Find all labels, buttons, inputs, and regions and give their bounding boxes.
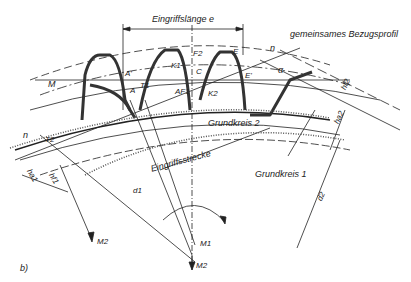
point-n-top: n bbox=[270, 44, 275, 53]
point-C: C bbox=[196, 68, 202, 76]
point-A: A bbox=[130, 87, 135, 95]
contact-length-label: Eingriffslänge e bbox=[152, 15, 214, 24]
reference-profile-label: gemeinsames Bezugsprofil bbox=[290, 30, 398, 39]
point-E-prime: E' bbox=[245, 72, 252, 80]
dim-d1: d1 bbox=[133, 187, 142, 195]
gear-meshing-diagram: Eingriffslänge e gemeinsames Bezugsprofi… bbox=[0, 0, 411, 282]
point-T1: T1 bbox=[140, 82, 149, 90]
subfigure-label: b) bbox=[20, 264, 28, 273]
point-M2-left: M2 bbox=[97, 238, 108, 246]
point-M2-bottom: M2 bbox=[196, 262, 207, 270]
point-n-left: n bbox=[23, 131, 28, 140]
base-circle-1-label: Grundkreis 1 bbox=[255, 170, 307, 179]
point-K1: K1 bbox=[171, 62, 181, 70]
point-T2: T2 bbox=[45, 136, 54, 144]
point-F2: F2 bbox=[193, 50, 202, 58]
alpha-label: α bbox=[278, 66, 283, 75]
point-AF1: AF1 bbox=[175, 88, 190, 96]
point-K2: K2 bbox=[208, 90, 218, 98]
point-M: M bbox=[48, 80, 56, 89]
point-M1: M1 bbox=[200, 240, 211, 248]
point-E: E bbox=[233, 48, 238, 56]
base-circle-2-label: Grundkreis 2 bbox=[208, 119, 260, 128]
point-A-prime: A' bbox=[125, 70, 132, 78]
